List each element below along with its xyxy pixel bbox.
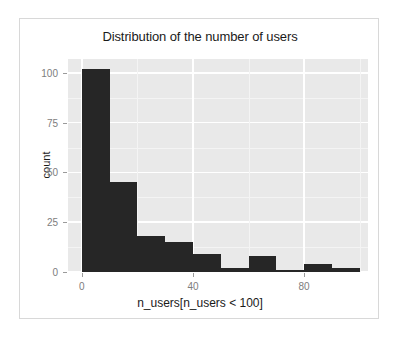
chart-title: Distribution of the number of users [20,29,380,44]
y-tick-label: 100 [41,67,58,78]
x-tick-label: 80 [299,281,310,292]
x-tick-mark [193,273,194,277]
histogram-bar [249,256,277,272]
histogram-bar [276,270,304,272]
y-gridline [68,122,368,124]
x-tick-label: 40 [187,281,198,292]
plot-panel [68,59,368,272]
chart-figure: Distribution of the number of users coun… [19,18,379,319]
y-gridline-minor [68,98,368,99]
y-tick-label: 50 [47,167,58,178]
y-tick-mark [63,73,67,74]
y-gridline [68,72,368,74]
x-tick-mark [304,273,305,277]
x-gridline [303,59,305,272]
x-gridline-minor [249,59,250,272]
y-tick-label: 25 [47,217,58,228]
y-gridline-minor [68,148,368,149]
histogram-bar [304,264,332,272]
x-axis-label: n_users[n_users < 100] [20,296,380,310]
x-gridline [192,59,194,272]
histogram-bar [82,69,110,272]
y-tick-mark [63,172,67,173]
histogram-bar [193,254,221,272]
y-tick-mark [63,123,67,124]
y-tick-mark [63,222,67,223]
y-tick-label: 75 [47,117,58,128]
y-axis-label: count [40,125,52,205]
y-tick-label: 0 [52,267,58,278]
histogram-bar [221,268,249,272]
x-tick-mark [82,273,83,277]
y-gridline [68,172,368,174]
histogram-bar [165,242,193,272]
y-tick-mark [63,272,67,273]
histogram-bar [137,236,165,272]
x-tick-label: 0 [79,281,85,292]
histogram-bar [332,268,360,272]
x-gridline-minor [360,59,361,272]
histogram-bar [110,182,138,272]
